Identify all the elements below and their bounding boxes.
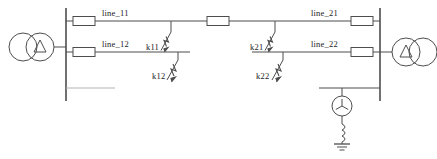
- label-fault-k11: k11: [146, 42, 159, 52]
- breaker-line-mid: [207, 17, 229, 26]
- right-transformer: [380, 38, 437, 66]
- label-line-22: line_22: [311, 39, 338, 49]
- fault-k11: [161, 21, 171, 52]
- line-21-circuit: [229, 17, 380, 26]
- fault-k12: [167, 52, 178, 82]
- left-transformer: [9, 33, 66, 61]
- generator-symbol: [332, 96, 352, 116]
- single-line-diagram-svg: [0, 0, 437, 159]
- label-fault-k22: k22: [256, 71, 269, 81]
- ground-icon: [334, 142, 350, 150]
- fault-k22: [272, 52, 283, 82]
- label-line-12: line_12: [102, 39, 129, 49]
- fault-k21: [265, 21, 275, 52]
- breaker-line-12-left: [73, 48, 95, 57]
- generator-branch: [319, 88, 380, 150]
- label-fault-k21: k21: [250, 42, 263, 52]
- line-11-circuit: [66, 17, 207, 26]
- reactor-coil-icon: [342, 124, 345, 142]
- label-line-21: line_21: [311, 8, 338, 18]
- label-line-11: line_11: [102, 8, 129, 18]
- label-fault-k12: k12: [152, 71, 165, 81]
- breaker-line-21-right: [351, 17, 373, 26]
- diagram-canvas: line_11 line_12 line_21 line_22 k11 k12 …: [0, 0, 437, 159]
- breaker-line-22-right: [351, 48, 373, 57]
- breaker-line-11-left: [73, 17, 95, 26]
